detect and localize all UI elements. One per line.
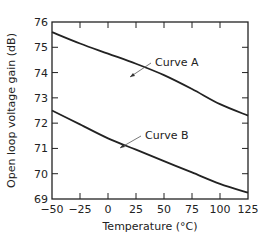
x-tick-label: 50 <box>157 203 171 216</box>
y-tick-label: 72 <box>34 117 48 130</box>
y-axis-label: Open loop voltage gain (dB) <box>5 33 18 188</box>
x-axis-label: Temperature (°C) <box>102 220 198 233</box>
line-chart: −50−2502550751001256970717273747576Tempe… <box>0 0 267 239</box>
curve-a <box>52 32 248 115</box>
x-tick-label: −25 <box>68 203 91 216</box>
x-tick-label: 0 <box>105 203 112 216</box>
curves <box>52 32 248 193</box>
x-tick-label: 75 <box>185 203 199 216</box>
y-tick-label: 76 <box>34 16 48 29</box>
y-tick-label: 75 <box>34 41 48 54</box>
plot-frame <box>52 22 248 199</box>
annotation-curve-b: Curve B <box>145 129 189 142</box>
x-tick-label: 25 <box>129 203 143 216</box>
axes <box>52 22 248 199</box>
y-tick-label: 71 <box>34 142 48 155</box>
x-tick-label: 125 <box>238 203 259 216</box>
y-tick-label: 74 <box>34 67 48 80</box>
y-tick-label: 70 <box>34 168 48 181</box>
curve-b <box>52 111 248 193</box>
labels: −50−2502550751001256970717273747576Tempe… <box>5 16 259 233</box>
y-tick-label: 69 <box>34 193 48 206</box>
y-tick-label: 73 <box>34 92 48 105</box>
x-tick-label: 100 <box>210 203 231 216</box>
annotation-curve-a: Curve A <box>155 56 199 69</box>
